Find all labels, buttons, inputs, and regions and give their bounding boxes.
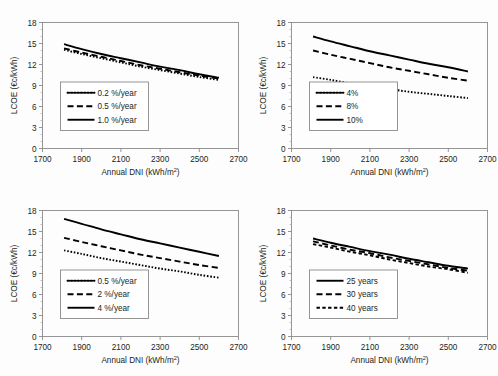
y-tick-label: 6 [281,291,286,300]
x-tick-label: 2700 [229,155,248,164]
y-axis-title: LCOE (€c/kWh) [259,57,268,115]
legend-label-0: 4% [347,89,359,98]
x-tick-label: 2100 [112,343,131,352]
y-tick-label: 15 [276,228,286,237]
x-tick-label: 2100 [361,155,380,164]
legend-label-0: 0.2 %/year [98,89,137,98]
y-tick-label: 3 [32,124,37,133]
legend-label-1: 8% [347,102,359,111]
y-axis-title: LCOE (€c/kWh) [259,245,268,303]
y-tick-label: 12 [27,61,37,70]
y-tick-label: 6 [32,291,37,300]
y-tick-label: 15 [276,40,286,49]
x-tick-label: 2700 [478,343,497,352]
y-tick-label: 18 [27,19,37,28]
legend-label-2: 1.0 %/year [98,116,137,125]
y-tick-label: 18 [276,207,286,216]
y-tick-label: 3 [32,312,37,321]
legend-label-1: 2 %/year [98,290,131,299]
x-tick-label: 1900 [322,343,341,352]
legend-label-2: 4 %/year [98,304,131,313]
x-tick-label: 2700 [229,343,248,352]
y-tick-label: 0 [32,333,37,342]
y-tick-label: 15 [27,228,37,237]
x-axis-title: Annual DNI (kWh/m2) [101,355,179,365]
chart-panel-panel-d: 0369121518170019002100230025002700Annual… [249,188,498,376]
y-tick-label: 12 [276,61,286,70]
y-tick-label: 18 [276,19,286,28]
chart-panel-panel-c: 0369121518170019002100230025002700Annual… [0,188,249,376]
chart-panel-panel-a: 0369121518170019002100230025002700Annual… [0,0,249,188]
legend-label-1: 0.5 %/year [98,102,137,111]
y-tick-label: 9 [32,82,37,91]
y-tick-label: 0 [32,145,37,154]
x-tick-label: 2300 [400,343,419,352]
y-tick-label: 9 [281,270,286,279]
y-tick-label: 0 [281,145,286,154]
legend-label-1: 30 years [347,290,378,299]
x-tick-label: 2100 [112,155,131,164]
y-tick-label: 6 [32,103,37,112]
x-tick-label: 2300 [400,155,419,164]
x-tick-label: 2700 [478,155,497,164]
y-tick-label: 18 [27,207,37,216]
series-line-1 [64,238,219,268]
x-tick-label: 2100 [361,343,380,352]
x-tick-label: 1700 [282,155,301,164]
legend-label-0: 25 years [347,277,378,286]
legend-label-0: 0.5 %/year [98,277,137,286]
x-tick-label: 2500 [190,343,209,352]
x-tick-label: 2300 [151,343,170,352]
x-tick-label: 1700 [282,343,301,352]
x-axis-title: Annual DNI (kWh/m2) [350,167,428,177]
x-tick-label: 1900 [73,155,92,164]
y-tick-label: 3 [281,124,286,133]
y-axis-title: LCOE (€c/kWh) [10,57,19,115]
x-tick-label: 2500 [439,155,458,164]
x-axis-title: Annual DNI (kWh/m2) [101,167,179,177]
legend-label-2: 10% [347,116,363,125]
series-line-1 [313,241,468,270]
y-tick-label: 0 [281,333,286,342]
y-tick-label: 3 [281,312,286,321]
y-tick-label: 9 [281,82,286,91]
chart-panel-panel-b: 0369121518170019002100230025002700Annual… [249,0,498,188]
x-tick-label: 2500 [190,155,209,164]
x-tick-label: 2500 [439,343,458,352]
series-line-0 [313,239,468,269]
series-line-2 [313,37,468,72]
x-tick-label: 1700 [33,343,52,352]
y-tick-label: 9 [32,270,37,279]
legend-label-2: 40 years [347,304,378,313]
x-tick-label: 1900 [322,155,341,164]
y-tick-label: 15 [27,40,37,49]
y-axis-title: LCOE (€c/kWh) [10,245,19,303]
y-tick-label: 12 [27,249,37,258]
x-axis-title: Annual DNI (kWh/m2) [350,355,428,365]
series-line-2 [64,44,219,78]
x-tick-label: 1900 [73,343,92,352]
series-line-2 [64,219,219,256]
x-tick-label: 1700 [33,155,52,164]
y-tick-label: 12 [276,249,286,258]
figure-root: 0369121518170019002100230025002700Annual… [0,0,498,376]
x-tick-label: 2300 [151,155,170,164]
y-tick-label: 6 [281,103,286,112]
